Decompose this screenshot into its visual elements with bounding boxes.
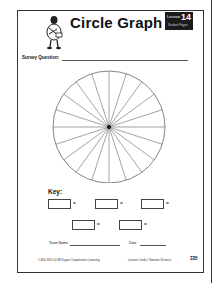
- footer-series: Lesson Cards / Smarter Science: [128, 258, 171, 262]
- mascot-icon: [43, 15, 65, 52]
- lesson-number: 14: [181, 12, 191, 22]
- key-equals-1: =: [73, 200, 76, 206]
- key-swatch-3[interactable]: [141, 199, 164, 209]
- key-label: Key:: [48, 188, 62, 195]
- key-equals-4: =: [97, 221, 100, 227]
- survey-question-field[interactable]: [62, 60, 188, 61]
- circle-graph[interactable]: [50, 63, 170, 183]
- key-equals-5: =: [144, 221, 147, 227]
- key-equals-2: =: [120, 200, 123, 206]
- page-title: Circle Graph: [70, 14, 162, 31]
- lesson-label: Lesson: [167, 14, 180, 19]
- key-equals-3: =: [166, 200, 169, 206]
- date-field[interactable]: [140, 245, 166, 246]
- key-swatch-1[interactable]: [48, 199, 71, 209]
- survey-question-label: Survey Question:: [22, 55, 59, 60]
- team-name-label: Team Name: [49, 241, 68, 245]
- team-name-field[interactable]: [70, 245, 120, 246]
- page-edge-line: [211, 0, 212, 283]
- date-label: Date: [129, 241, 136, 245]
- key-swatch-4[interactable]: [72, 220, 95, 230]
- page-number: 335: [190, 256, 198, 261]
- key-swatch-5[interactable]: [119, 220, 142, 230]
- key-swatch-2[interactable]: [95, 199, 118, 209]
- footer-publisher: 1-800-933-CLUE Kagan Cooperative Learnin…: [38, 258, 100, 262]
- lesson-badge: Lesson 14 Student Pages: [165, 12, 193, 30]
- lesson-subtitle: Student Pages: [168, 23, 188, 27]
